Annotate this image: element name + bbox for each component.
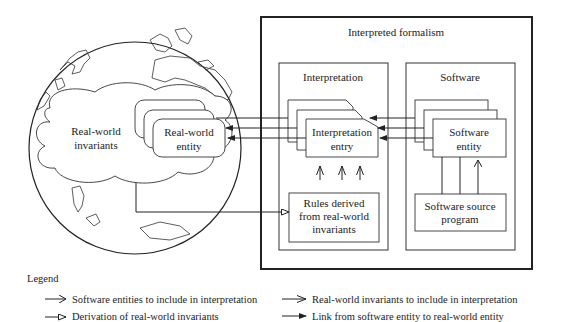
software-title: Software [440, 71, 480, 83]
entry-label-line2: entry [331, 140, 354, 152]
rules-label-line3: invariants [312, 223, 355, 235]
software-entity-line2: entity [456, 140, 482, 152]
legend-item-0: Software entities to include in interpre… [72, 294, 258, 305]
cloud-label-line2: invariants [74, 139, 117, 151]
entity-label-line2: entity [176, 140, 202, 152]
stick-arrows [320, 166, 360, 180]
interpretation-title: Interpretation [303, 71, 363, 83]
formalism-title: Interpreted formalism [348, 26, 445, 38]
rules-label-line2: from real-world [299, 210, 369, 222]
source-to-entity-lines [442, 157, 478, 194]
legend-title: Legend [27, 273, 59, 284]
diagram-canvas: Real-world invariants Real-world entity … [0, 0, 563, 322]
source-label-line2: program [441, 213, 479, 225]
legend: Legend Software entities to include in i… [27, 273, 518, 322]
rules-label-line1: Rules derived [304, 197, 365, 209]
globe: Real-world invariants Real-world entity [29, 28, 241, 254]
software-entity-line1: Software [449, 126, 489, 138]
legend-item-3: Link from software entity to real-world … [312, 311, 505, 322]
legend-item-1: Real-world invariants to include in inte… [312, 294, 518, 305]
cloud-label-line1: Real-world [71, 125, 121, 137]
entity-label-line1: Real-world [164, 126, 214, 138]
entry-label-line1: Interpretation [312, 126, 372, 138]
legend-item-2: Derivation of real-world invariants [72, 311, 219, 322]
source-label-line1: Software source [424, 200, 495, 212]
